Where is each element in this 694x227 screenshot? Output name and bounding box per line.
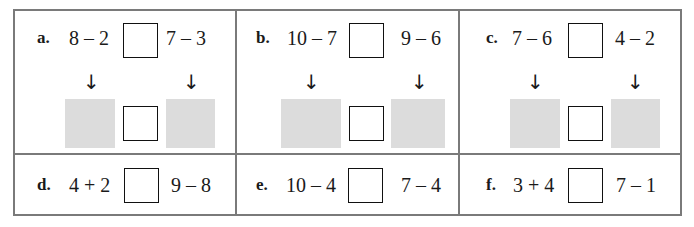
problem-label: c. bbox=[486, 28, 498, 48]
comparison-box[interactable] bbox=[123, 106, 158, 141]
left-expression: 4 + 2 bbox=[69, 174, 110, 196]
down-arrow-icon: ↓ bbox=[627, 72, 644, 92]
problem-label: e. bbox=[256, 175, 268, 195]
right-expression: 9 – 6 bbox=[401, 27, 441, 49]
down-arrow-icon: ↓ bbox=[411, 72, 428, 92]
right-expression: 9 – 8 bbox=[171, 174, 211, 196]
left-answer-area[interactable] bbox=[510, 99, 560, 148]
down-arrow-icon: ↓ bbox=[303, 72, 320, 92]
right-answer-area[interactable] bbox=[391, 99, 445, 148]
right-expression: 7 – 1 bbox=[616, 174, 656, 196]
left-expression: 7 – 6 bbox=[512, 27, 552, 49]
comparison-box[interactable] bbox=[124, 168, 159, 203]
comparison-box[interactable] bbox=[568, 106, 603, 141]
column-divider bbox=[458, 9, 460, 216]
row-divider bbox=[13, 153, 682, 155]
left-answer-area[interactable] bbox=[65, 99, 115, 148]
problem-label: f. bbox=[486, 175, 496, 195]
right-answer-area[interactable] bbox=[166, 99, 215, 148]
right-answer-area[interactable] bbox=[611, 99, 660, 148]
problem-label: b. bbox=[256, 28, 270, 48]
down-arrow-icon: ↓ bbox=[83, 72, 100, 92]
comparison-box[interactable] bbox=[568, 168, 603, 203]
comparison-box[interactable] bbox=[348, 168, 383, 203]
down-arrow-icon: ↓ bbox=[527, 72, 544, 92]
problem-label: d. bbox=[37, 175, 51, 195]
problem-label: a. bbox=[37, 28, 50, 48]
left-answer-area[interactable] bbox=[281, 99, 341, 148]
comparison-box[interactable] bbox=[568, 23, 603, 58]
comparison-box[interactable] bbox=[349, 23, 384, 58]
column-divider bbox=[235, 9, 237, 216]
left-expression: 10 – 7 bbox=[287, 27, 337, 49]
comparison-box[interactable] bbox=[123, 23, 158, 58]
left-expression: 8 – 2 bbox=[69, 27, 109, 49]
comparison-box[interactable] bbox=[349, 106, 384, 141]
right-expression: 7 – 3 bbox=[166, 27, 206, 49]
down-arrow-icon: ↓ bbox=[183, 72, 200, 92]
left-expression: 10 – 4 bbox=[286, 174, 336, 196]
left-expression: 3 + 4 bbox=[513, 174, 554, 196]
right-expression: 7 – 4 bbox=[401, 174, 441, 196]
right-expression: 4 – 2 bbox=[615, 27, 655, 49]
